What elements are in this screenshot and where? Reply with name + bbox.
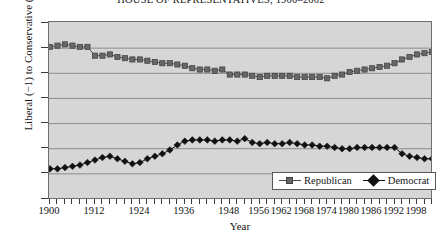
data-point-democrat: [99, 154, 106, 161]
data-point-democrat: [264, 139, 271, 146]
x-tick-mark: [236, 199, 237, 204]
data-point-democrat: [84, 159, 91, 166]
data-point-democrat: [122, 158, 129, 165]
x-tick-mark: [394, 199, 395, 204]
x-tick-mark: [154, 199, 155, 204]
data-point-republican: [340, 72, 345, 77]
x-tick-mark: [161, 199, 162, 204]
data-point-republican: [287, 73, 292, 78]
data-point-democrat: [369, 144, 376, 151]
data-point-democrat: [92, 157, 99, 164]
x-tick-mark: [244, 199, 245, 204]
x-tick-mark: [176, 199, 177, 204]
y-tick-mark: [41, 72, 48, 73]
data-point-republican: [220, 67, 225, 72]
y-tick-mark: [41, 97, 48, 98]
x-tick-mark: [371, 199, 372, 204]
x-tick-mark: [296, 199, 297, 204]
data-point-republican: [317, 74, 322, 79]
data-point-republican: [227, 72, 232, 77]
data-point-democrat: [414, 154, 421, 161]
y-tick-mark: [41, 47, 48, 48]
data-point-democrat: [77, 162, 84, 169]
data-point-democrat: [174, 142, 181, 149]
x-tick-mark: [169, 199, 170, 204]
y-tick-mark: [41, 172, 48, 173]
data-point-democrat: [54, 166, 61, 173]
x-tick-mark: [131, 199, 132, 204]
x-tick-mark: [214, 199, 215, 204]
x-tick-label: 1936: [161, 205, 207, 216]
y-axis-title: Liberal (−1) to Conservative (1): [22, 0, 34, 150]
data-point-democrat: [429, 155, 432, 162]
legend-entry-republican: Republican: [279, 175, 352, 186]
data-point-democrat: [189, 137, 196, 144]
x-tick-mark: [319, 199, 320, 204]
x-tick-mark: [304, 199, 305, 204]
data-point-democrat: [339, 145, 346, 152]
data-point-republican: [115, 54, 120, 59]
data-point-republican: [377, 64, 382, 69]
data-point-republican: [272, 73, 277, 78]
x-tick-label: 1900: [26, 205, 72, 216]
data-point-democrat: [107, 153, 114, 160]
data-point-democrat: [286, 139, 293, 146]
data-point-republican: [49, 44, 53, 49]
x-tick-mark: [424, 199, 425, 204]
data-point-republican: [175, 62, 180, 67]
chart-title: HOUSE OF REPRESENTATIVES, 1900–2002: [0, 0, 442, 5]
data-point-republican: [422, 51, 427, 56]
x-tick-mark: [266, 199, 267, 204]
data-point-democrat: [114, 155, 121, 162]
data-point-republican: [55, 43, 60, 48]
data-point-republican: [354, 68, 359, 73]
x-tick-mark: [64, 199, 65, 204]
x-tick-mark: [206, 199, 207, 204]
data-point-republican: [152, 59, 157, 64]
data-point-republican: [302, 74, 307, 79]
data-point-democrat: [197, 137, 204, 144]
x-tick-mark: [334, 199, 335, 204]
x-tick-mark: [94, 199, 95, 204]
chart-legend: Republican Democrat: [272, 172, 436, 190]
data-point-republican: [137, 57, 142, 62]
x-tick-mark: [124, 199, 125, 204]
republican-marker-icon: [279, 176, 301, 185]
data-point-republican: [347, 69, 352, 74]
data-point-democrat: [137, 159, 144, 166]
chart-figure: HOUSE OF REPRESENTATIVES, 1900–2002 Libe…: [0, 0, 442, 237]
data-point-democrat: [361, 144, 368, 151]
data-point-democrat: [301, 142, 308, 149]
x-tick-mark: [191, 199, 192, 204]
x-tick-mark: [259, 199, 260, 204]
data-point-democrat: [384, 144, 391, 151]
data-point-democrat: [346, 145, 353, 152]
x-tick-mark: [79, 199, 80, 204]
data-point-democrat: [256, 140, 263, 147]
x-tick-mark: [229, 199, 230, 204]
data-point-republican: [250, 73, 255, 78]
data-point-democrat: [144, 155, 151, 162]
data-point-democrat: [376, 144, 383, 151]
data-point-democrat: [182, 138, 189, 145]
data-point-republican: [167, 61, 172, 66]
data-point-republican: [295, 74, 300, 79]
data-point-democrat: [271, 140, 278, 147]
x-tick-label: 1912: [71, 205, 117, 216]
data-point-republican: [107, 52, 112, 57]
x-tick-mark: [139, 199, 140, 204]
democrat-marker-icon: [363, 176, 385, 185]
x-tick-mark: [56, 199, 57, 204]
data-point-republican: [70, 43, 75, 48]
data-point-republican: [100, 53, 105, 58]
x-tick-label: 1924: [116, 205, 162, 216]
data-point-republican: [212, 68, 217, 73]
y-tick-mark: [41, 22, 48, 23]
data-point-democrat: [249, 139, 256, 146]
x-tick-mark: [431, 199, 432, 204]
data-point-republican: [265, 73, 270, 78]
data-point-democrat: [309, 142, 316, 149]
x-tick-mark: [86, 199, 87, 204]
data-point-democrat: [129, 161, 136, 168]
data-point-republican: [160, 61, 165, 66]
